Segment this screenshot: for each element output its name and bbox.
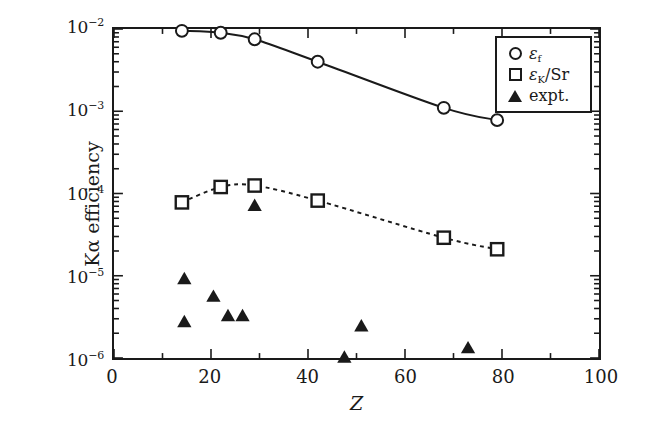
- series-1-open-circle: [176, 25, 503, 126]
- legend-label-epsilon-f: εf: [526, 44, 541, 63]
- y-axis-title: Kα efficiency: [81, 104, 103, 304]
- marker-filled-triangle: [461, 341, 475, 353]
- series-2-open-square: [176, 179, 504, 255]
- legend-label-expt: expt.: [526, 86, 569, 105]
- open-circle-icon: [504, 47, 526, 60]
- x-tick-label: 40: [296, 366, 319, 387]
- marker-open-circle: [176, 25, 188, 37]
- marker-open-square: [491, 243, 503, 255]
- marker-filled-triangle: [206, 289, 220, 301]
- marker-open-circle: [491, 114, 503, 126]
- legend-item-expt: expt.: [504, 85, 584, 106]
- figure-root: 10−210−310−410−510−6 Kα efficiency 02040…: [0, 0, 645, 429]
- marker-filled-triangle: [337, 350, 351, 362]
- y-tick-label: 10−2: [67, 17, 104, 37]
- marker-filled-triangle: [248, 199, 262, 211]
- x-axis-tick-labels: 020406080100: [0, 366, 645, 392]
- marker-open-square: [312, 194, 324, 206]
- marker-open-circle: [438, 102, 450, 114]
- marker-filled-triangle: [221, 309, 235, 321]
- marker-open-circle: [312, 56, 324, 68]
- marker-filled-triangle: [354, 319, 368, 331]
- marker-open-circle: [249, 33, 261, 45]
- marker-open-square: [438, 232, 450, 244]
- legend-item-epsilon-k-over-sr: εK/Sr: [504, 64, 584, 85]
- x-tick-label: 0: [106, 366, 117, 387]
- marker-filled-triangle: [177, 272, 191, 284]
- legend: εf εK/Sr expt.: [495, 36, 592, 113]
- legend-label-epsilon-k-over-sr: εK/Sr: [526, 65, 569, 84]
- legend-item-epsilon-f: εf: [504, 43, 584, 64]
- marker-open-square: [249, 179, 261, 191]
- x-tick-label: 60: [394, 366, 417, 387]
- series-3-filled-triangle: [177, 199, 475, 363]
- x-axis-title: Z: [112, 392, 601, 414]
- marker-filled-triangle: [177, 315, 191, 327]
- filled-triangle-icon: [504, 90, 526, 102]
- x-tick-label: 80: [492, 366, 515, 387]
- marker-open-square: [215, 181, 227, 193]
- open-square-icon: [504, 68, 526, 81]
- marker-open-square: [176, 196, 188, 208]
- marker-open-circle: [215, 27, 227, 39]
- x-tick-label: 20: [198, 366, 221, 387]
- x-tick-label: 100: [584, 366, 618, 387]
- marker-filled-triangle: [235, 309, 249, 321]
